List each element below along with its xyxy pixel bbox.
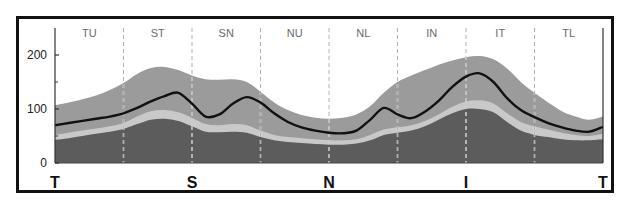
quadrant-label-s: S xyxy=(187,174,198,191)
quadrant-label-t: T xyxy=(598,174,608,191)
y-tick-label: 0 xyxy=(40,156,47,170)
quadrant-label-i: I xyxy=(464,174,468,191)
sector-label-sn: SN xyxy=(219,27,234,39)
sector-label-nl: NL xyxy=(356,27,370,39)
y-tick-label: 200 xyxy=(27,48,47,62)
y-tick-label: 100 xyxy=(27,102,47,116)
sector-label-in: IN xyxy=(426,27,437,39)
sector-label-nu: NU xyxy=(287,27,303,39)
sector-label-st: ST xyxy=(151,27,165,39)
rnfl-tsnit-chart: 0100200 TUSTSNNUNLINITTL TSNIT xyxy=(0,0,619,200)
chart-canvas: 0100200 TUSTSNNUNLINITTL TSNIT xyxy=(0,0,619,200)
quadrant-label-t: T xyxy=(50,174,60,191)
sector-label-tl: TL xyxy=(562,27,575,39)
quadrant-label-n: N xyxy=(323,174,335,191)
sector-label-tu: TU xyxy=(82,27,97,39)
sector-label-it: IT xyxy=(495,27,505,39)
